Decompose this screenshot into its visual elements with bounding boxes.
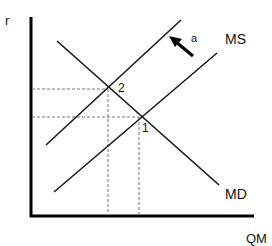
money-supply-shifted-curve xyxy=(46,20,181,145)
money-supply-curve xyxy=(54,53,217,192)
money-market-diagram: r QM MS MD a 2 1 xyxy=(0,0,272,246)
x-axis-label: QM xyxy=(246,231,267,246)
money-demand-label: MD xyxy=(225,186,247,202)
equilibrium-1-label: 1 xyxy=(142,121,149,135)
equilibrium-2-label: 2 xyxy=(118,81,125,95)
money-supply-label: MS xyxy=(225,31,246,47)
y-axis-label: r xyxy=(5,13,10,28)
shift-arrow-icon xyxy=(169,36,193,56)
shift-arrow-label: a xyxy=(191,32,198,44)
